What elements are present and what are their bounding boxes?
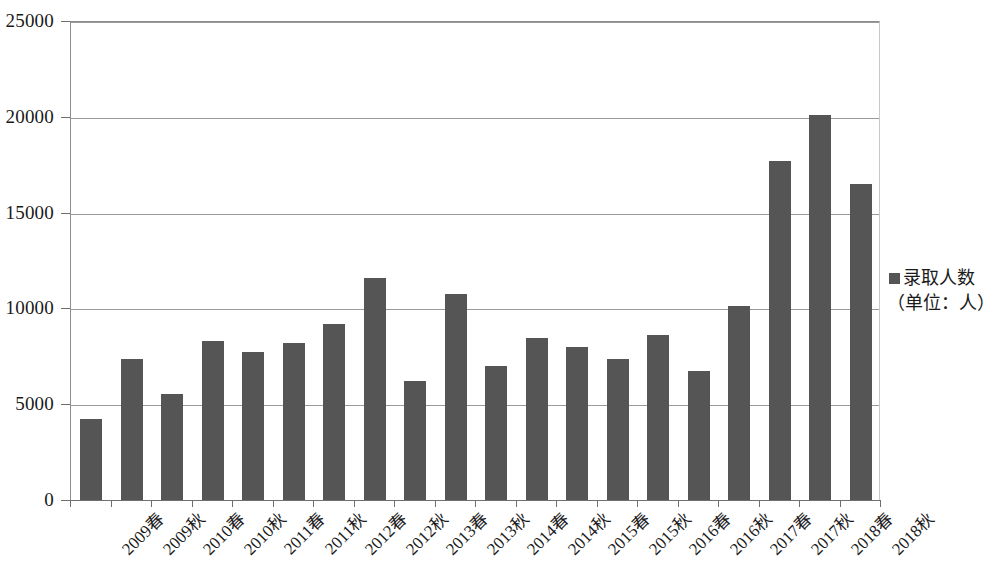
y-axis-tick-mark (61, 404, 70, 405)
x-axis-tick-label: 2009春 (119, 510, 168, 559)
x-axis-tick-mark (192, 500, 193, 507)
x-axis-tick-label: 2014春 (524, 510, 573, 559)
x-axis-tick-mark (799, 500, 800, 507)
x-axis-tick-mark (435, 500, 436, 507)
y-axis-tick-label: 0 (0, 490, 54, 509)
x-axis-tick-label: 2018春 (848, 510, 897, 559)
x-axis-tick-label: 2014秋 (565, 510, 614, 559)
x-axis-tick-label: 2012春 (362, 510, 411, 559)
bar (323, 324, 345, 501)
legend-label-line1: 录取人数 (903, 266, 975, 291)
bar (769, 161, 791, 501)
bar (80, 419, 102, 501)
x-axis-tick-label: 2013春 (443, 510, 492, 559)
legend: 录取人数 （单位：人） (889, 266, 997, 316)
gridline (71, 309, 879, 310)
x-axis-tick-mark (718, 500, 719, 507)
bar (161, 394, 183, 501)
legend-swatch-icon (889, 273, 900, 284)
bar (364, 278, 386, 501)
y-axis-tick-label: 15000 (0, 203, 54, 222)
x-axis-tick-label: 2009秋 (160, 510, 209, 559)
x-axis-tick-mark (273, 500, 274, 507)
x-axis-tick-mark (840, 500, 841, 507)
y-axis-tick-label: 25000 (0, 11, 54, 30)
y-axis-tick-mark (61, 117, 70, 118)
bar (202, 341, 224, 501)
bar (688, 371, 710, 501)
x-axis-tick-mark (597, 500, 598, 507)
y-axis-tick-mark (61, 213, 70, 214)
y-axis-tick-mark (61, 500, 70, 501)
gridline (71, 22, 879, 23)
x-axis-tick-mark (475, 500, 476, 507)
x-axis-tick-mark (70, 500, 71, 507)
x-axis-tick-mark (637, 500, 638, 507)
x-axis-tick-label: 2016春 (686, 510, 735, 559)
x-axis-tick-mark (759, 500, 760, 507)
bar (242, 352, 264, 501)
x-axis-tick-mark (354, 500, 355, 507)
y-axis-tick-mark (61, 21, 70, 22)
x-axis-tick-mark (111, 500, 112, 507)
bar (404, 381, 426, 501)
x-axis-tick-mark (394, 500, 395, 507)
x-axis-tick-mark (678, 500, 679, 507)
legend-label-line2: （单位：人） (887, 291, 997, 316)
gridline (71, 214, 879, 215)
x-axis-tick-label: 2012秋 (403, 510, 452, 559)
x-axis-tick-mark (880, 500, 881, 507)
x-axis-tick-label: 2016秋 (727, 510, 776, 559)
bar (647, 335, 669, 501)
x-axis-tick-label: 2011秋 (322, 510, 370, 558)
x-axis-tick-label: 2011春 (281, 510, 329, 558)
bar (283, 343, 305, 501)
bar (607, 359, 629, 501)
gridline (71, 118, 879, 119)
bar (526, 338, 548, 501)
x-axis-tick-label: 2017春 (767, 510, 816, 559)
x-axis-tick-label: 2018秋 (889, 510, 938, 559)
plot-area (70, 21, 880, 500)
x-axis-tick-label: 2015秋 (646, 510, 695, 559)
bar (445, 294, 467, 501)
bar (809, 115, 831, 501)
bar (485, 366, 507, 501)
bar (850, 184, 872, 501)
bar (728, 306, 750, 501)
y-axis-tick-label: 20000 (0, 107, 54, 126)
x-axis-tick-label: 2010春 (200, 510, 249, 559)
bar-chart: 0500010000150002000025000 2009春2009秋2010… (0, 0, 997, 569)
y-axis-tick-label: 10000 (0, 298, 54, 317)
x-axis-tick-mark (313, 500, 314, 507)
legend-item-enrollment: 录取人数 (889, 266, 997, 291)
bar (121, 359, 143, 501)
x-axis-tick-label: 2015春 (605, 510, 654, 559)
x-axis-tick-mark (232, 500, 233, 507)
x-axis-tick-mark (151, 500, 152, 507)
x-axis-tick-label: 2010秋 (241, 510, 290, 559)
bar (566, 347, 588, 501)
x-axis-tick-label: 2017秋 (808, 510, 857, 559)
x-axis-tick-mark (556, 500, 557, 507)
gridline (71, 405, 879, 406)
y-axis-tick-mark (61, 308, 70, 309)
x-axis-tick-mark (516, 500, 517, 507)
x-axis-tick-label: 2013秋 (484, 510, 533, 559)
y-axis-tick-label: 5000 (0, 394, 54, 413)
